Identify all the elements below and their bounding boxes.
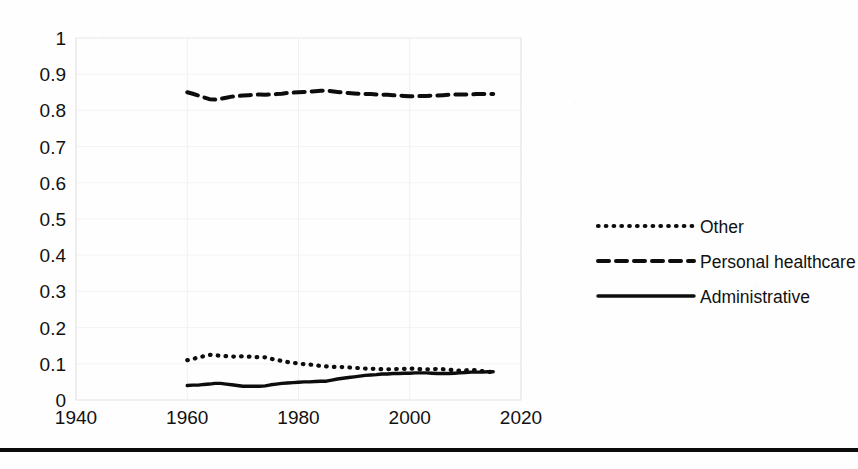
- y-axis-tick-label: 0.2: [40, 318, 66, 339]
- chart-figure: 10.90.80.70.60.50.40.30.20.10 1940196019…: [0, 0, 858, 469]
- footer-divider-rule: [0, 448, 858, 452]
- y-axis-tick-label: 0.1: [40, 354, 66, 375]
- y-axis-tick-label: 0.4: [40, 245, 67, 266]
- data-series-group: [187, 90, 493, 386]
- y-axis-tick-label: 1: [55, 28, 66, 49]
- x-axis-tick-label: 1940: [55, 407, 97, 428]
- legend-label-administrative: Administrative: [700, 287, 810, 307]
- y-axis-tick-label: 0.3: [40, 281, 66, 302]
- y-axis-tick-labels: 10.90.80.70.60.50.40.30.20.10: [40, 28, 67, 411]
- x-axis-tick-label: 1980: [277, 407, 319, 428]
- y-axis-tick-label: 0.9: [40, 64, 66, 85]
- x-axis-tick-label: 2020: [500, 407, 542, 428]
- legend-label-personal-healthcare: Personal healthcare: [700, 252, 856, 272]
- line-chart-canvas: 10.90.80.70.60.50.40.30.20.10 1940196019…: [0, 0, 858, 469]
- x-axis-tick-labels: 19401960198020002020: [55, 407, 542, 428]
- chart-legend: OtherPersonal healthcareAdministrative: [598, 217, 856, 307]
- x-axis-tick-label: 2000: [389, 407, 431, 428]
- series-line-administrative: [187, 372, 493, 386]
- y-axis-tick-label: 0.5: [40, 209, 66, 230]
- y-axis-tick-label: 0.8: [40, 100, 66, 121]
- series-line-personal-healthcare: [187, 90, 493, 99]
- legend-label-other: Other: [700, 217, 744, 237]
- x-axis-tick-label: 1960: [166, 407, 208, 428]
- y-axis-tick-label: 0.6: [40, 173, 66, 194]
- y-axis-tick-label: 0.7: [40, 137, 66, 158]
